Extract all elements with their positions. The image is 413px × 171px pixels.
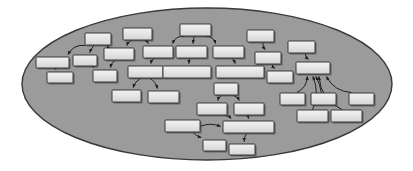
node-21-body[interactable]	[296, 62, 330, 74]
node-17[interactable]	[247, 30, 276, 44]
node-2[interactable]	[73, 55, 99, 68]
node-11-body[interactable]	[148, 91, 179, 103]
node-17-body[interactable]	[247, 30, 274, 42]
node-8-body[interactable]	[143, 46, 173, 58]
node-20[interactable]	[288, 41, 317, 55]
node-6[interactable]	[104, 48, 136, 62]
node-30[interactable]	[165, 120, 202, 134]
diagram-canvas	[0, 0, 413, 171]
node-32[interactable]	[203, 140, 228, 153]
node-25[interactable]	[297, 110, 330, 124]
node-27[interactable]	[214, 83, 240, 97]
node-24-body[interactable]	[349, 93, 374, 105]
node-4[interactable]	[47, 72, 75, 85]
node-3-body[interactable]	[85, 33, 111, 45]
node-20-body[interactable]	[288, 41, 315, 53]
node-6-body[interactable]	[104, 48, 134, 60]
node-24[interactable]	[349, 93, 376, 107]
node-31[interactable]	[223, 121, 276, 135]
node-4-body[interactable]	[47, 72, 73, 83]
node-32-body[interactable]	[203, 140, 226, 151]
node-28-body[interactable]	[197, 103, 227, 115]
node-14[interactable]	[163, 66, 213, 80]
node-28[interactable]	[197, 103, 229, 117]
node-12-body[interactable]	[180, 24, 211, 36]
node-18-body[interactable]	[255, 52, 281, 64]
node-29[interactable]	[234, 103, 266, 117]
node-16-body[interactable]	[216, 66, 264, 78]
node-7[interactable]	[123, 28, 154, 42]
node-33-body[interactable]	[229, 144, 255, 155]
node-22[interactable]	[280, 93, 307, 107]
node-26-body[interactable]	[331, 110, 362, 122]
node-5-body[interactable]	[93, 70, 117, 82]
node-1-body[interactable]	[36, 57, 69, 68]
node-9-body[interactable]	[128, 66, 163, 78]
node-8[interactable]	[143, 46, 175, 60]
node-33[interactable]	[229, 144, 257, 157]
node-13-body[interactable]	[176, 46, 207, 58]
node-26[interactable]	[331, 110, 364, 124]
node-5[interactable]	[93, 70, 119, 84]
node-29-body[interactable]	[234, 103, 264, 115]
node-23[interactable]	[311, 93, 338, 107]
node-25-body[interactable]	[297, 110, 328, 122]
node-19-body[interactable]	[267, 71, 293, 83]
node-2-body[interactable]	[73, 55, 97, 66]
node-22-body[interactable]	[280, 93, 305, 105]
node-31-body[interactable]	[223, 121, 274, 133]
node-16[interactable]	[216, 66, 266, 80]
node-30-body[interactable]	[165, 120, 200, 132]
node-19[interactable]	[267, 71, 295, 85]
node-10[interactable]	[112, 90, 143, 104]
diagram-root	[0, 0, 413, 171]
node-11[interactable]	[148, 91, 181, 105]
node-27-body[interactable]	[214, 83, 238, 95]
node-21[interactable]	[296, 62, 332, 76]
node-14-body[interactable]	[163, 66, 211, 78]
node-13[interactable]	[176, 46, 209, 60]
node-7-body[interactable]	[123, 28, 152, 40]
node-23-body[interactable]	[311, 93, 336, 105]
node-1[interactable]	[36, 57, 71, 70]
node-18[interactable]	[255, 52, 283, 66]
node-10-body[interactable]	[112, 90, 141, 102]
node-3[interactable]	[85, 33, 113, 47]
node-15[interactable]	[213, 46, 246, 60]
node-9[interactable]	[128, 66, 165, 80]
node-12[interactable]	[180, 24, 213, 38]
node-15-body[interactable]	[213, 46, 244, 58]
